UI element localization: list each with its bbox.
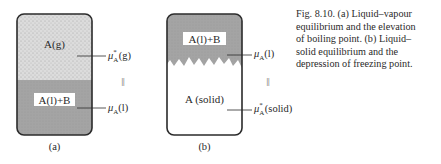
equality-sign: || [266,77,269,86]
region-label-gas: A(g) [44,38,65,51]
region-label-liquid: A(l)+B [189,33,221,46]
caption-line: Fig. 8.10. (a) Liquid–vapour [296,8,441,21]
panel-label-b: (b) [198,141,211,153]
chemical-potential-liquid: μA(l) [107,102,129,116]
caption-line: equilibrium and the elevation [296,21,441,34]
panel-a: A(g) A(l)+B μA*(g) || μA(l) (a) [17,14,132,153]
caption-line: depression of freezing point. [296,58,441,71]
region-label-liquid: A(l)+B [39,94,71,107]
figure-caption: Fig. 8.10. (a) Liquid–vapour equilibrium… [296,8,441,71]
panel-label-a: (a) [49,141,61,153]
liquid-region [17,80,92,135]
figure-8-10: A(g) A(l)+B μA*(g) || μA(l) (a) A(l)+B A… [0,0,441,164]
caption-line: solid equilibrium and the [296,46,441,59]
caption-line: of boiling point. (b) Liquid– [296,33,441,46]
panel-b: A(l)+B A (solid) μA(l) || μA*(solid) (b) [167,14,293,153]
chemical-potential-liquid: μA(l) [253,48,275,62]
chemical-potential-gas: μA*(g) [107,48,132,64]
chemical-potential-solid: μA*(solid) [253,101,293,117]
region-label-solid: A (solid) [185,93,224,106]
equality-sign: || [121,77,124,86]
